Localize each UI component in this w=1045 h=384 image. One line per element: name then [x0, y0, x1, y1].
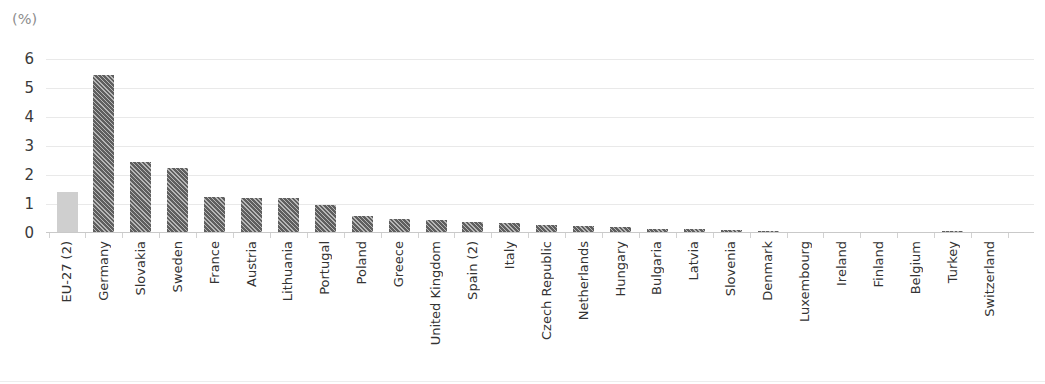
- x-axis-tick: [602, 233, 603, 238]
- bar: [93, 75, 114, 233]
- x-axis-tick: [233, 233, 234, 238]
- x-axis-category-label: Poland: [354, 241, 370, 284]
- bar: [167, 168, 188, 233]
- x-axis-tick: [787, 233, 788, 238]
- x-axis-category-label: Lithuania: [280, 241, 296, 301]
- x-axis-category-label: Luxembourg: [797, 241, 813, 322]
- x-axis-tick: [344, 233, 345, 238]
- x-axis-category-label: Turkey: [945, 241, 961, 283]
- gridline: [46, 88, 1034, 89]
- chart-figure: Share of gross electricity consumption, …: [0, 0, 1045, 384]
- x-axis-category-label: Austria: [244, 241, 260, 287]
- x-axis-category-label: Italy: [502, 241, 518, 269]
- x-axis-tick: [159, 233, 160, 238]
- x-axis-category-label: Netherlands: [576, 241, 592, 320]
- x-axis-tick: [565, 233, 566, 238]
- x-axis-tick: [823, 233, 824, 238]
- x-axis-tick: [713, 233, 714, 238]
- gridline: [46, 204, 1034, 205]
- bar: [389, 219, 410, 234]
- x-axis-category-label: Germany: [96, 241, 112, 301]
- x-axis-category-label: Belgium: [908, 241, 924, 294]
- y-axis-unit-label: (%): [12, 12, 37, 27]
- bar: [57, 192, 78, 233]
- bar: [352, 216, 373, 233]
- x-axis-category-label: Bulgaria: [649, 241, 665, 295]
- x-axis-category-label: Latvia: [686, 241, 702, 281]
- x-axis-tick: [528, 233, 529, 238]
- gridline: [46, 175, 1034, 176]
- x-axis-tick: [491, 233, 492, 238]
- x-axis-category-label: Denmark: [760, 241, 776, 301]
- x-axis-tick: [860, 233, 861, 238]
- bar: [241, 198, 262, 233]
- x-axis-tick: [750, 233, 751, 238]
- x-axis-tick: [122, 233, 123, 238]
- x-axis-category-label: Finland: [871, 241, 887, 287]
- x-axis-tick: [897, 233, 898, 238]
- x-axis-category-label: Switzerland: [982, 241, 998, 317]
- y-axis-tick-label: 2: [24, 168, 34, 183]
- y-axis-tick-label: 6: [24, 52, 34, 67]
- x-axis-category-label: Slovakia: [133, 241, 149, 296]
- x-axis-category-label: Sweden: [170, 241, 186, 292]
- x-axis-line: [46, 232, 1034, 233]
- footer-divider: [0, 381, 1045, 382]
- bar: [204, 197, 225, 233]
- x-axis-category-label: Slovenia: [723, 241, 739, 296]
- y-axis-tick-label: 3: [24, 139, 34, 154]
- x-axis-tick: [454, 233, 455, 238]
- x-axis-tick: [639, 233, 640, 238]
- x-axis-tick: [85, 233, 86, 238]
- x-axis-tick: [270, 233, 271, 238]
- x-axis-tick: [381, 233, 382, 238]
- y-axis-tick-label: 1: [24, 197, 34, 212]
- x-axis-category-label: Ireland: [834, 241, 850, 286]
- x-axis-tick: [307, 233, 308, 238]
- plot-area: 0123456: [46, 59, 1034, 233]
- y-axis-tick-label: 4: [24, 110, 34, 125]
- x-axis-tick: [934, 233, 935, 238]
- bar: [130, 162, 151, 233]
- x-axis-category-label: Greece: [391, 241, 407, 287]
- y-axis-tick-label: 5: [24, 81, 34, 96]
- x-axis-tick: [971, 233, 972, 238]
- x-axis-category-label: Hungary: [613, 241, 629, 297]
- x-axis-category-label: EU-27 (2): [59, 241, 75, 303]
- x-axis-category-label: Czech Republic: [539, 241, 555, 340]
- x-axis-category-label: United Kingdom: [428, 241, 444, 345]
- x-axis-tick: [49, 233, 50, 238]
- x-axis-category-label: Spain (2): [465, 241, 481, 300]
- x-axis-tick: [196, 233, 197, 238]
- bar: [315, 205, 336, 233]
- x-axis-tick: [1008, 233, 1009, 238]
- y-axis-tick-label: 0: [24, 226, 34, 241]
- x-axis-category-label: Portugal: [317, 241, 333, 295]
- gridline: [46, 117, 1034, 118]
- x-axis-category-label: France: [207, 241, 223, 284]
- bar: [278, 198, 299, 233]
- x-axis-tick: [418, 233, 419, 238]
- gridline: [46, 59, 1034, 60]
- x-axis-tick: [676, 233, 677, 238]
- gridline: [46, 146, 1034, 147]
